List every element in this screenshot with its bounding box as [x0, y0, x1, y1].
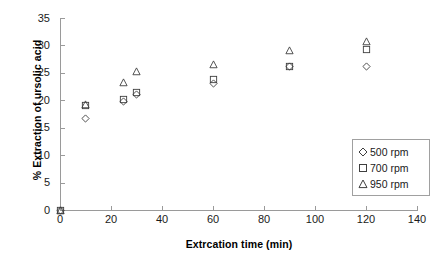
square-marker-icon — [358, 163, 369, 174]
x-axis-tick-label: 40 — [142, 214, 182, 225]
x-axis-tick-label: 100 — [295, 214, 335, 225]
data-point-square — [119, 95, 128, 104]
x-axis-tick-label: 60 — [193, 214, 233, 225]
data-point-triangle — [132, 67, 141, 76]
x-axis-tick-label: 20 — [91, 214, 131, 225]
data-point-triangle — [56, 206, 65, 215]
y-axis-title: % Extraction of ursolic acid — [31, 15, 43, 205]
x-axis-tick-label: 140 — [397, 214, 437, 225]
legend-item-label: 950 rpm — [369, 179, 409, 190]
x-axis-line — [60, 210, 418, 211]
triangle-marker-icon — [358, 179, 369, 190]
x-axis-tick — [417, 206, 418, 210]
data-point-triangle — [285, 46, 294, 55]
legend-item-label: 700 rpm — [369, 163, 409, 174]
data-point-square — [285, 62, 294, 71]
data-point-square — [132, 88, 141, 97]
chart-legend: 500 rpm700 rpm950 rpm — [352, 139, 430, 196]
chart-figure: 05101520253035 020406080100120140 % Extr… — [0, 0, 442, 265]
x-axis-tick-label: 120 — [346, 214, 386, 225]
data-point-diamond — [81, 114, 90, 123]
data-point-diamond — [362, 62, 371, 71]
x-axis-tick-label: 80 — [244, 214, 284, 225]
data-point-triangle — [362, 37, 371, 46]
diamond-marker-icon — [358, 147, 369, 158]
data-point-triangle — [209, 60, 218, 69]
x-axis-tick-label: 0 — [40, 214, 80, 225]
x-axis-title: Extrcation time (min) — [60, 238, 418, 250]
legend-item-500-rpm: 500 rpm — [358, 146, 409, 159]
legend-item-label: 500 rpm — [369, 147, 409, 158]
data-point-triangle — [119, 78, 128, 87]
data-point-triangle — [81, 100, 90, 109]
data-point-square — [362, 45, 371, 54]
data-point-square — [209, 75, 218, 84]
legend-item-950-rpm: 950 rpm — [358, 178, 409, 191]
legend-item-700-rpm: 700 rpm — [358, 162, 409, 175]
